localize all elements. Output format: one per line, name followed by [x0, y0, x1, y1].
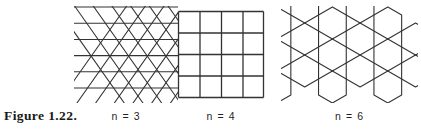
square-tiling-graphic [177, 10, 265, 99]
caption-triangular-tiling: n = 3 [74, 110, 178, 122]
triangular-tiling-graphic [74, 6, 178, 103]
figure-label: Figure 1.22. [4, 108, 77, 124]
caption-hexagonal-tiling: n = 6 [281, 110, 418, 122]
figure-container: Figure 1.22. [0, 0, 421, 137]
hexagonal-tiling-graphic [281, 6, 418, 103]
triangular-tiling-panel [74, 6, 178, 103]
hexagonal-tiling-panel [281, 6, 418, 103]
caption-square-tiling: n = 4 [177, 110, 265, 122]
square-tiling-panel [177, 10, 265, 99]
